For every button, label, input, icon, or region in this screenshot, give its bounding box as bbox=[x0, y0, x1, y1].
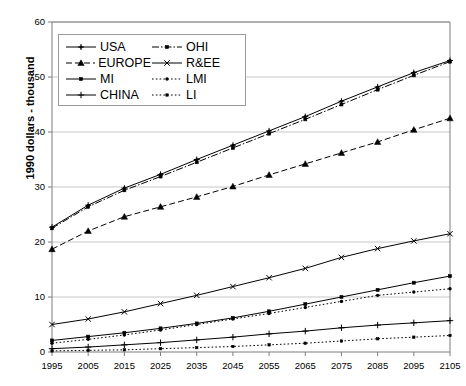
legend-label: R&EE bbox=[186, 55, 220, 71]
y-tick-label: 20 bbox=[19, 236, 45, 247]
legend-swatch-icon bbox=[151, 72, 183, 86]
x-tick-label: 2105 bbox=[428, 360, 466, 371]
legend-label: OHI bbox=[186, 39, 208, 55]
legend-label: MI bbox=[100, 71, 114, 87]
legend-label: EUROPE bbox=[98, 55, 151, 71]
legend-label: USA bbox=[100, 39, 126, 55]
legend-swatch-icon bbox=[151, 40, 183, 54]
series-li bbox=[51, 334, 451, 352]
legend-label: CHINA bbox=[100, 87, 139, 103]
legend-item-usa[interactable]: USA bbox=[65, 39, 151, 55]
legend-swatch-icon bbox=[65, 88, 97, 102]
series-mi bbox=[51, 275, 452, 342]
legend-item-r-ee[interactable]: R&EE bbox=[151, 55, 241, 71]
y-tick-label: 30 bbox=[19, 181, 45, 192]
y-tick-label: 60 bbox=[19, 16, 45, 27]
legend-item-li[interactable]: LI bbox=[151, 87, 241, 103]
legend-label: LMI bbox=[186, 71, 207, 87]
legend-label: LI bbox=[186, 87, 196, 103]
line-chart: 1990 dollars - thousand 0102030405060 19… bbox=[0, 0, 466, 386]
legend-swatch-icon bbox=[65, 56, 95, 70]
legend-swatch-icon bbox=[65, 40, 97, 54]
y-tick-label: 50 bbox=[19, 71, 45, 82]
legend-item-mi[interactable]: MI bbox=[65, 71, 151, 87]
legend-swatch-icon bbox=[151, 56, 183, 70]
legend-item-europe[interactable]: EUROPE bbox=[65, 55, 151, 71]
series-lmi bbox=[50, 287, 451, 345]
series-europe bbox=[49, 115, 453, 252]
legend-item-lmi[interactable]: LMI bbox=[151, 71, 241, 87]
chart-legend: USAOHIEUROPER&EEMILMICHINALI bbox=[58, 34, 246, 106]
y-tick-label: 40 bbox=[19, 126, 45, 137]
y-tick-label: 0 bbox=[19, 346, 45, 357]
series-r-ee bbox=[49, 231, 452, 327]
legend-item-ohi[interactable]: OHI bbox=[151, 39, 241, 55]
legend-item-china[interactable]: CHINA bbox=[65, 87, 151, 103]
y-tick-label: 10 bbox=[19, 291, 45, 302]
legend-swatch-icon bbox=[65, 72, 97, 86]
legend-swatch-icon bbox=[151, 88, 183, 102]
